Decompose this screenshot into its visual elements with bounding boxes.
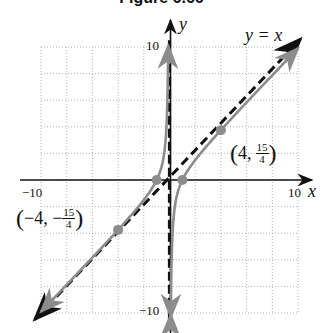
data-point: [177, 175, 187, 185]
curve-left-arrow: [41, 298, 54, 311]
y-min-tick-label: −10: [139, 303, 159, 319]
point-label-negative: (−4, −154): [16, 205, 83, 232]
data-point: [216, 125, 226, 135]
x-min-tick-label: −10: [22, 185, 42, 201]
curve-left-branch: [41, 46, 168, 312]
y-max-tick-label: 10: [146, 38, 159, 54]
asymptote-label: y = x: [245, 25, 282, 46]
x-axis-label: x: [308, 181, 316, 202]
data-point: [113, 225, 123, 235]
curve-right-branch: [171, 48, 298, 314]
x-max-tick-label: 10: [288, 185, 301, 201]
data-point: [152, 175, 162, 185]
point-label-positive: (4, 154): [230, 140, 277, 167]
y-axis-label: y: [179, 14, 187, 35]
fraction: 154: [256, 142, 269, 165]
fraction: 154: [62, 207, 75, 230]
